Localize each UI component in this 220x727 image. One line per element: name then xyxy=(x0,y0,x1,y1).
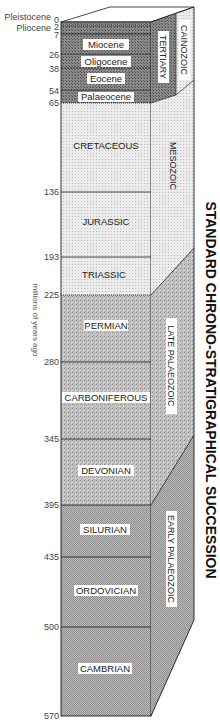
band-mesozoic xyxy=(61,103,151,295)
label-cretaceous: CRETACEOUS xyxy=(73,140,138,151)
label-miocene: Miocene xyxy=(88,39,124,50)
front-face xyxy=(61,22,151,716)
label-early-palaeozoic: EARLY PALAEOZOIC xyxy=(166,515,176,604)
label-pliocene: Pliocene xyxy=(16,23,51,33)
tick-54: 54 xyxy=(49,86,59,96)
label-carboniferous: CARBONIFEROUS xyxy=(65,392,148,403)
tick-136: 136 xyxy=(44,187,59,197)
label-ordovician: ORDOVICIAN xyxy=(76,585,136,596)
tick-570: 570 xyxy=(44,711,59,721)
stratigraphy-diagram: 0 2 7 26 38 54 65 136 193 225 280 345 39… xyxy=(0,0,220,727)
label-jurassic: JURASSIC xyxy=(83,216,130,227)
tick-500: 500 xyxy=(44,622,59,632)
label-cambrian: CAMBRIAN xyxy=(80,663,130,674)
tick-labels: 0 2 7 26 38 54 65 136 193 225 280 345 39… xyxy=(44,15,59,721)
label-triassic: TRIASSIC xyxy=(82,269,126,280)
label-tertiary: TERTIARY xyxy=(158,35,168,79)
label-late-palaeozoic: LATE PALAEOZOIC xyxy=(166,325,176,407)
label-oligocene: Oligocene xyxy=(85,56,128,67)
tick-345: 345 xyxy=(44,434,59,444)
tick-65: 65 xyxy=(49,98,59,108)
tick-26: 26 xyxy=(49,50,59,60)
label-permian: PERMIAN xyxy=(84,320,127,331)
tick-435: 435 xyxy=(44,552,59,562)
label-silurian: SILURIAN xyxy=(83,524,127,535)
tick-395: 395 xyxy=(44,500,59,510)
label-palaeocene: Palaeocene xyxy=(81,91,131,102)
label-pleistocene: Pleistocene xyxy=(4,12,51,22)
band-early-palaeozoic xyxy=(61,505,151,716)
diagram-title: STANDARD CHRONO-STRATIGRAPHICAL SUCCESSI… xyxy=(203,201,219,578)
label-cainozoic: CAINOZOIC xyxy=(179,25,189,76)
tick-225: 225 xyxy=(44,290,59,300)
tick-38: 38 xyxy=(49,64,59,74)
axis-label: millions of years ago xyxy=(31,284,40,357)
label-devonian: DEVONIAN xyxy=(81,465,131,476)
label-mesozoic: MESOZOIC xyxy=(168,142,178,191)
tick-7: 7 xyxy=(54,30,59,40)
tick-280: 280 xyxy=(44,357,59,367)
label-eocene: Eocene xyxy=(90,73,122,84)
tick-193: 193 xyxy=(44,252,59,262)
